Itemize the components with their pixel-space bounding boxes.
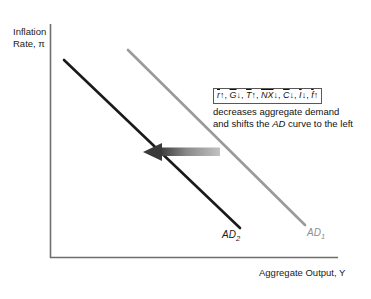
formula-arrow-G: ↓ (237, 90, 242, 100)
ad1-curve-label: AD1 (307, 227, 325, 241)
formula-variable-NX: NX (261, 90, 274, 100)
callout-body-after: curve to the left (285, 118, 353, 129)
callout-body-text: decreases aggregate demand and shifts th… (213, 106, 357, 129)
ad2-label-text: AD (222, 229, 236, 240)
formula-arrow-f: ↑ (314, 90, 319, 100)
chart-canvas (0, 0, 371, 299)
ad1-curve (128, 50, 305, 225)
callout-annotation: r↑, G↓, T↑, NX↓, C↓, I↓, f↑ decreases ag… (213, 84, 357, 129)
ad1-label-subscript: 1 (321, 232, 325, 241)
x-axis-label: Aggregate Output, Y (259, 267, 345, 279)
ad2-curve-label: AD2 (222, 229, 240, 243)
formula-arrow-C: ↓ (290, 90, 295, 100)
formula-variable-C: C (283, 90, 290, 100)
callout-body-emphasis: AD (272, 118, 285, 129)
callout-formula: r↑, G↓, T↑, NX↓, C↓, I↓, f↑ (213, 88, 322, 104)
formula-variable-T: T (246, 90, 252, 100)
formula-arrow-r: ↑ (220, 90, 225, 100)
formula-variable-G: G (230, 90, 237, 100)
formula-arrow-I: ↓ (302, 90, 307, 100)
formula-variable-I: I (299, 90, 302, 100)
formula-variable-f: f (311, 90, 314, 100)
formula-arrow-NX: ↓ (274, 90, 279, 100)
ad2-label-subscript: 2 (236, 234, 240, 243)
ad1-label-text: AD (307, 227, 321, 238)
aggregate-demand-shift-figure: Inflation Rate, π Aggregate Output, Y AD… (0, 0, 371, 299)
y-axis-label: Inflation Rate, π (13, 26, 46, 50)
formula-arrow-T: ↑ (252, 90, 257, 100)
y-axis-label-line2: Rate, π (13, 38, 46, 50)
y-axis-label-line1: Inflation (13, 26, 46, 38)
formula-variable-r: r (217, 90, 220, 100)
